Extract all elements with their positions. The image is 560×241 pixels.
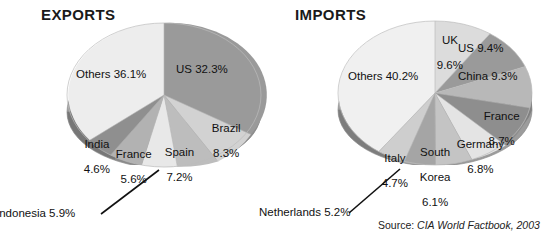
imports-slice-label-italy: Italy 4.7% — [369, 140, 408, 202]
imports-skorea-value: 6.1% — [422, 196, 448, 208]
imports-callout-label-netherlands: Netherlands 5.2% — [259, 206, 350, 218]
imports-skorea-l2: Korea — [420, 171, 451, 183]
imports-italy-value: 4.7% — [382, 177, 408, 189]
figure-canvas: EXPORTS — [0, 0, 560, 241]
source-prefix: Source: — [378, 219, 414, 231]
imports-slice-label-germany: Germany 6.8% — [444, 126, 504, 188]
imports-slice-label-south-korea: South Korea 6.1% — [407, 134, 450, 221]
imports-germany-name: Germany — [457, 138, 504, 150]
imports-italy-name: Italy — [384, 152, 405, 164]
source-note: Source: CIA World Factbook, 2003 — [378, 219, 540, 231]
imports-slice-label-china: China 9.3% — [458, 70, 517, 82]
imports-skorea-l1: South — [420, 146, 450, 158]
source-text: CIA World Factbook, 2003 — [417, 219, 540, 231]
imports-france-name: France — [484, 110, 520, 122]
imports-slice-label-others: Others 40.2% — [348, 70, 418, 82]
imports-uk-name: UK — [442, 34, 458, 46]
imports-germany-value: 6.8% — [467, 163, 493, 175]
imports-slice-label-us: US 9.4% — [458, 42, 503, 54]
